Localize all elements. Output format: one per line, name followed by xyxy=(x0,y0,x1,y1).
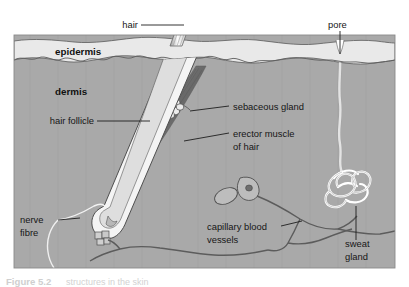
label-capillary-blood-vessels: capillary blood xyxy=(207,221,267,232)
figure-caption: Figure 5.2 structures in the skin xyxy=(6,276,149,287)
figure-caption-rest: structures in the skin xyxy=(66,277,149,287)
skin-block xyxy=(14,0,395,268)
label-nerve-fibre-line2: fibre xyxy=(20,227,38,238)
skin-cross-section-diagram: epidermis dermis hair pore sebaceous gla… xyxy=(0,0,409,287)
label-hair-follicle: hair follicle xyxy=(50,115,94,126)
label-nerve-fibre: nerve xyxy=(20,214,43,225)
label-pore: pore xyxy=(328,19,347,30)
sensory-receptor-b-core xyxy=(246,185,253,191)
label-erector-muscle-line2: of hair xyxy=(233,141,259,152)
sweat-duct-outline xyxy=(339,54,342,172)
label-sweat-gland: sweat xyxy=(345,238,370,249)
nerve-plexus-at-bulb xyxy=(95,231,110,245)
label-sebaceous-gland: sebaceous gland xyxy=(233,101,304,112)
label-hair: hair xyxy=(122,19,138,30)
layer-label-dermis: dermis xyxy=(55,86,88,97)
label-sweat-gland-line2: gland xyxy=(345,251,368,262)
figure-caption-prefix: Figure 5.2 xyxy=(6,276,51,287)
layer-label-epidermis: epidermis xyxy=(55,46,102,57)
label-erector-muscle: erector muscle xyxy=(233,128,294,139)
figure-root: epidermis dermis hair pore sebaceous gla… xyxy=(0,0,409,287)
label-capillary-blood-vessels-line2: vessels xyxy=(207,234,239,245)
